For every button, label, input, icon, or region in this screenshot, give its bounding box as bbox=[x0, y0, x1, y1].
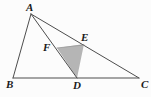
vertex-label-c: C bbox=[141, 79, 148, 90]
vertex-label-a: A bbox=[26, 2, 33, 13]
segment-ad bbox=[31, 14, 77, 78]
geometry-figure: A B C D E F bbox=[0, 0, 151, 97]
vertex-label-f: F bbox=[43, 42, 50, 53]
vertex-label-b: B bbox=[6, 79, 13, 90]
segment-ab bbox=[13, 14, 31, 78]
vertex-label-d: D bbox=[73, 80, 81, 91]
vertex-label-e: E bbox=[81, 32, 88, 43]
shaded-triangle-fed bbox=[57, 44, 84, 78]
